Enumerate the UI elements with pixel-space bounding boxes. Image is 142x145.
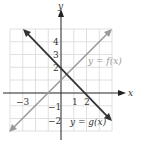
tick-y-neg1: −1 <box>48 102 61 112</box>
x-axis-label: x <box>128 88 133 98</box>
y-axis-label: y <box>57 1 64 11</box>
tick-x-neg3: −3 <box>16 97 30 107</box>
tick-y-neg2: −2 <box>48 116 61 126</box>
tick-x-2: 2 <box>84 97 90 107</box>
x-axis-arrow-icon <box>118 90 126 96</box>
tick-x-1: 1 <box>72 97 78 107</box>
g-label: y = g(x) <box>69 117 107 127</box>
f-label: y = f(x) <box>87 56 122 66</box>
chart-plot: y x −3 1 2 4 3 2 −1 −2 y = f(x) y = g(x) <box>0 0 142 145</box>
tick-y-2: 2 <box>53 63 59 73</box>
tick-y-4: 4 <box>53 37 59 47</box>
tick-y-3: 3 <box>53 50 59 60</box>
